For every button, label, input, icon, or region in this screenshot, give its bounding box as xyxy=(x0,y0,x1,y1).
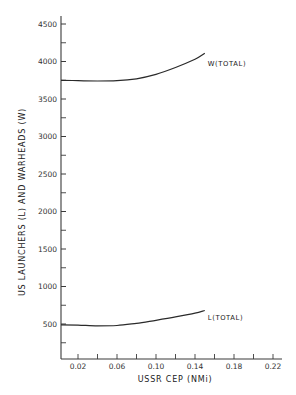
x-tick-label: 0.10 xyxy=(148,362,165,371)
series-label-l-total: L(TOTAL) xyxy=(208,314,243,322)
series-label-w-total: W(TOTAL) xyxy=(208,60,246,68)
plot-area: W(TOTAL)L(TOTAL) xyxy=(61,53,246,326)
series-line-l-total xyxy=(61,311,205,326)
y-tick-label: 3500 xyxy=(38,95,57,104)
x-axis-title: USSR CEP (NMi) xyxy=(138,375,213,384)
x-tick-label: 0.14 xyxy=(187,362,204,371)
chart: 50010001500200025003000350040004500 0.02… xyxy=(0,0,296,395)
y-tick-label: 4000 xyxy=(38,57,57,66)
x-tick-label: 0.06 xyxy=(109,362,126,371)
x-tick-label: 0.18 xyxy=(226,362,243,371)
y-tick-label: 500 xyxy=(43,320,58,329)
series-line-w-total xyxy=(61,53,205,81)
y-tick-label: 1500 xyxy=(38,245,57,254)
y-tick-label: 4500 xyxy=(38,20,57,29)
y-tick-label: 2000 xyxy=(38,207,57,216)
x-tick-label: 0.02 xyxy=(70,362,87,371)
x-axis: 0.020.060.100.140.180.22 xyxy=(61,354,282,371)
y-axis: 50010001500200025003000350040004500 xyxy=(38,16,66,359)
y-tick-label: 3000 xyxy=(38,132,57,141)
y-tick-label: 1000 xyxy=(38,282,57,291)
y-tick-label: 2500 xyxy=(38,170,57,179)
x-tick-label: 0.22 xyxy=(265,362,282,371)
y-axis-title: US LAUNCHERS (L) AND WARHEADS (W) xyxy=(18,108,27,296)
